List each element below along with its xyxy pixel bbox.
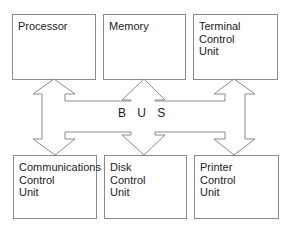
disk-control-unit-box: Disk Control Unit xyxy=(104,155,187,219)
communications-control-unit-box: Communications Control Unit xyxy=(13,155,97,219)
disk-control-unit-label: Disk Control Unit xyxy=(110,161,186,199)
printer-control-unit-box: Printer Control Unit xyxy=(194,155,279,219)
bus-label: B U S xyxy=(118,106,169,120)
communications-control-unit-label: Communications Control Unit xyxy=(19,161,96,199)
printer-control-unit-label: Printer Control Unit xyxy=(200,161,278,199)
